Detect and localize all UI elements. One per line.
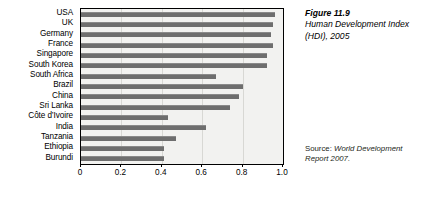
figure-number: Figure 11.9 [305,8,423,19]
category-axis-labels: USAUKGermanyFranceSingaporeSouth KoreaSo… [0,8,77,163]
source-label: Source: [305,144,334,153]
x-axis-tick-label: 0.6 [195,168,206,177]
bar [81,12,275,17]
bar-row [81,50,283,60]
x-axis-tick [120,164,121,167]
category-label: Tanzania [0,132,77,142]
x-axis-tick [282,164,283,167]
category-label: Germany [0,29,77,39]
category-label: Ethiopia [0,142,77,152]
bar-row [81,61,283,71]
bar-row [81,9,283,19]
bar-row [81,81,283,91]
bar [81,84,243,89]
bar-row [81,30,283,40]
category-label: Sri Lanka [0,101,77,111]
category-label: USA [0,8,77,18]
x-axis-tick-label: 0.4 [155,168,166,177]
x-axis-tick [201,164,202,167]
bar-row [81,19,283,29]
category-label: UK [0,18,77,28]
bar [81,125,206,130]
bar-row [81,143,283,153]
bar [81,136,176,141]
figure-title: Human Development Index (HDI), 2005 [305,19,423,42]
x-axis-tick-label: 0 [78,168,83,177]
x-axis: 00.20.40.60.81.0 [80,164,283,184]
category-label: Brazil [0,80,77,90]
bar [81,115,168,120]
bar [81,94,239,99]
bar-row [81,102,283,112]
bar [81,105,230,110]
category-label: India [0,122,77,132]
category-label: South Africa [0,70,77,80]
bar-row [81,133,283,143]
x-axis-tick [80,164,81,167]
x-axis-tick-label: 1.0 [276,168,287,177]
bar-row [81,112,283,122]
category-label: Singapore [0,49,77,59]
bar-row [81,92,283,102]
bar [81,156,164,161]
category-label: South Korea [0,60,77,70]
figure-container: USAUKGermanyFranceSingaporeSouth KoreaSo… [0,0,426,203]
bar [81,63,267,68]
bar-row [81,40,283,50]
x-axis-tick [242,164,243,167]
plot-area [80,8,284,165]
bar-row [81,154,283,164]
bar [81,74,216,79]
x-axis-tick-label: 0.8 [236,168,247,177]
x-axis-tick-label: 0.2 [115,168,126,177]
bar [81,146,164,151]
figure-caption: Figure 11.9 Human Development Index (HDI… [305,8,423,42]
bar [81,32,271,37]
bar [81,22,273,27]
category-label: Côte d’Ivoire [0,111,77,121]
bar-row [81,123,283,133]
source-note: Source: World Development Report 2007. [305,144,423,165]
x-axis-tick [161,164,162,167]
bar [81,43,273,48]
plot-inner [81,9,283,164]
category-label: France [0,39,77,49]
hdi-bar-chart: USAUKGermanyFranceSingaporeSouth KoreaSo… [0,0,296,203]
bar-row [81,71,283,81]
category-label: China [0,91,77,101]
category-label: Burundi [0,153,77,163]
bar [81,53,267,58]
